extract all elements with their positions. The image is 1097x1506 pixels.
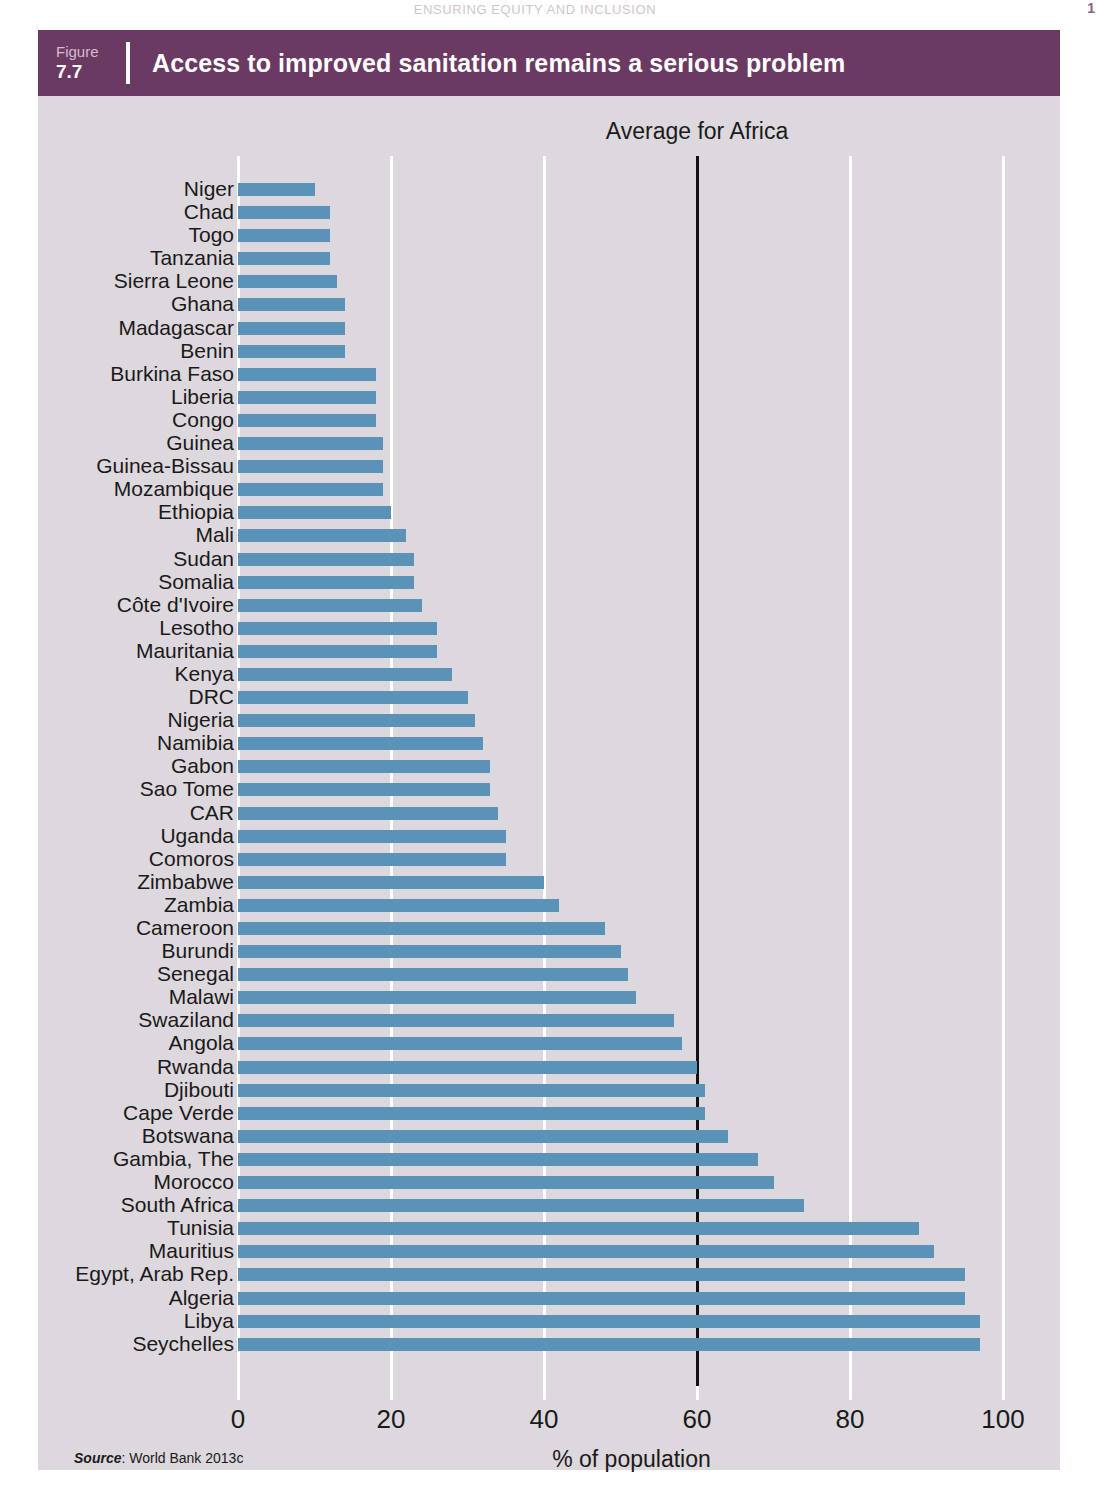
x-tick-mark-40 (543, 1386, 546, 1400)
x-tick-mark-100 (1002, 1386, 1005, 1400)
bar (238, 1222, 919, 1235)
country-label: Botswana (0, 1125, 234, 1146)
bar (238, 968, 628, 981)
country-label: Burundi (0, 940, 234, 961)
country-label: Madagascar (0, 317, 234, 338)
bar (238, 1292, 965, 1305)
x-axis: 020406080100 (38, 1386, 1060, 1446)
country-label: Mauritania (0, 640, 234, 661)
bar (238, 691, 468, 704)
bar (238, 991, 636, 1004)
country-label: Niger (0, 178, 234, 199)
bar (238, 529, 406, 542)
figure-number-label: Figure (56, 44, 126, 60)
bar (238, 298, 345, 311)
country-label: Mauritius (0, 1240, 234, 1261)
country-label: Cape Verde (0, 1102, 234, 1123)
bar (238, 322, 345, 335)
country-label: Gabon (0, 755, 234, 776)
country-label: Algeria (0, 1287, 234, 1308)
country-label: Egypt, Arab Rep. (0, 1263, 234, 1284)
country-label: Ghana (0, 293, 234, 314)
figure-number-value: 7.7 (56, 62, 126, 82)
bar (238, 553, 414, 566)
country-label: Congo (0, 409, 234, 430)
figure-number-box: Figure 7.7 (38, 44, 126, 82)
bar (238, 576, 414, 589)
country-label: Togo (0, 224, 234, 245)
title-divider-rule (126, 42, 130, 84)
country-label: Somalia (0, 571, 234, 592)
country-label: Sudan (0, 548, 234, 569)
bar (238, 1037, 682, 1050)
bar (238, 460, 383, 473)
country-label: CAR (0, 802, 234, 823)
country-label: Gambia, The (0, 1148, 234, 1169)
bar (238, 830, 506, 843)
country-label: Comoros (0, 848, 234, 869)
country-label: Kenya (0, 663, 234, 684)
page-running-head: Ensuring equity and inclusion 1 (0, 0, 1097, 26)
x-tick-mark-60 (696, 1386, 699, 1400)
bar (238, 506, 391, 519)
x-tick-label-60: 60 (683, 1404, 712, 1435)
bar (238, 622, 437, 635)
country-label: Swaziland (0, 1009, 234, 1030)
bar (238, 368, 376, 381)
bar (238, 1107, 705, 1120)
bar (238, 1130, 728, 1143)
country-label: Sao Tome (0, 778, 234, 799)
country-label: Zimbabwe (0, 871, 234, 892)
country-label: South Africa (0, 1194, 234, 1215)
country-label: DRC (0, 686, 234, 707)
country-label: Senegal (0, 963, 234, 984)
country-label: Cameroon (0, 917, 234, 938)
country-label: Seychelles (0, 1333, 234, 1354)
country-label: Djibouti (0, 1079, 234, 1100)
country-label: Guinea-Bissau (0, 455, 234, 476)
source-value: : World Bank 2013c (121, 1450, 243, 1466)
bar (238, 414, 376, 427)
country-label: Tunisia (0, 1217, 234, 1238)
x-tick-mark-20 (390, 1386, 393, 1400)
bar (238, 807, 498, 820)
x-tick-label-40: 40 (530, 1404, 559, 1435)
average-for-africa-label: Average for Africa (606, 118, 788, 145)
country-label: Malawi (0, 986, 234, 1007)
bar (238, 183, 315, 196)
bar (238, 599, 422, 612)
x-tick-label-0: 0 (231, 1404, 245, 1435)
x-tick-label-100: 100 (981, 1404, 1024, 1435)
bar (238, 876, 544, 889)
bar (238, 229, 330, 242)
country-label: Tanzania (0, 247, 234, 268)
bar-rows: NigerChadTogoTanzaniaSierra LeoneGhanaMa… (38, 180, 1060, 1358)
country-label: Sierra Leone (0, 270, 234, 291)
country-label: Guinea (0, 432, 234, 453)
country-label: Namibia (0, 732, 234, 753)
country-label: Rwanda (0, 1056, 234, 1077)
figure-title: Access to improved sanitation remains a … (152, 49, 845, 78)
bar (238, 668, 452, 681)
bar (238, 922, 605, 935)
country-label: Nigeria (0, 709, 234, 730)
bar (238, 853, 506, 866)
country-label: Angola (0, 1032, 234, 1053)
bar (238, 1315, 980, 1328)
country-label: Mozambique (0, 478, 234, 499)
plot-area: Average for Africa NigerChadTogoTanzania… (38, 96, 1060, 1470)
bar (238, 1084, 705, 1097)
source-note: Source: World Bank 2013c (74, 1450, 243, 1466)
source-label: Source (74, 1450, 121, 1466)
country-label: Uganda (0, 825, 234, 846)
country-label: Libya (0, 1310, 234, 1331)
page-number: 1 (1087, 0, 1095, 16)
running-head-text: Ensuring equity and inclusion (0, 2, 1070, 17)
country-label: Morocco (0, 1171, 234, 1192)
country-label: Mali (0, 524, 234, 545)
chart-row: Seychelles (38, 1335, 1060, 1358)
country-label: Burkina Faso (0, 363, 234, 384)
bar (238, 252, 330, 265)
country-label: Benin (0, 340, 234, 361)
x-tick-label-20: 20 (377, 1404, 406, 1435)
